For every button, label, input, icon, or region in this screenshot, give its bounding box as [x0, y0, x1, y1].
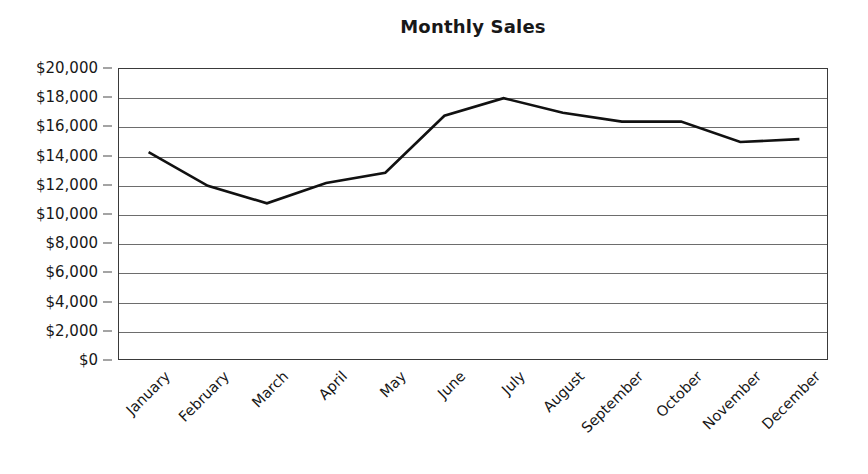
plot-area: [118, 68, 828, 360]
x-axis-tick-label: January: [123, 368, 173, 418]
y-axis-tick-mark: [103, 360, 112, 361]
y-axis-tick-mark: [103, 330, 112, 331]
monthly-sales-chart: Monthly Sales $20,000$18,000$16,000$14,0…: [0, 0, 868, 474]
y-axis-tick-label: $0: [79, 351, 98, 369]
y-axis-tick-label: $2,000: [46, 322, 99, 340]
y-axis-tick-label: $18,000: [36, 88, 98, 106]
sales-line-series: [149, 98, 800, 203]
chart-title: Monthly Sales: [118, 16, 828, 37]
x-axis-tick-label: September: [578, 368, 646, 436]
y-axis-tick-label: $8,000: [46, 234, 99, 252]
x-axis-tick-label: March: [249, 368, 292, 411]
y-axis-tick-label: $16,000: [36, 117, 98, 135]
y-axis-tick-label: $10,000: [36, 205, 98, 223]
x-axis: JanuaryFebruaryMarchAprilMayJuneJulyAugu…: [118, 360, 828, 470]
y-axis-tick-mark: [103, 97, 112, 98]
x-axis-tick-label: May: [377, 368, 410, 401]
x-axis-tick-label: July: [498, 368, 528, 398]
y-axis-tick-mark: [103, 155, 112, 156]
y-axis-tick-mark: [103, 301, 112, 302]
y-axis-tick-label: $14,000: [36, 147, 98, 165]
y-axis-tick-mark: [103, 184, 112, 185]
y-axis-tick-label: $4,000: [46, 293, 99, 311]
y-axis: $20,000$18,000$16,000$14,000$12,000$10,0…: [0, 68, 112, 360]
x-axis-tick-label: April: [316, 368, 351, 403]
y-axis-tick-mark: [103, 126, 112, 127]
y-axis-tick-mark: [103, 243, 112, 244]
x-axis-tick-label: June: [435, 368, 469, 402]
x-axis-tick-label: December: [759, 368, 823, 432]
x-axis-tick-label: August: [540, 368, 587, 415]
x-axis-tick-label: November: [700, 368, 765, 433]
x-axis-tick-label: October: [653, 368, 705, 420]
y-axis-tick-label: $12,000: [36, 176, 98, 194]
y-axis-tick-label: $6,000: [46, 263, 99, 281]
y-axis-tick-mark: [103, 272, 112, 273]
y-axis-tick-mark: [103, 68, 112, 69]
y-axis-tick-mark: [103, 214, 112, 215]
series-layer: [119, 69, 829, 361]
y-axis-tick-label: $20,000: [36, 59, 98, 77]
x-axis-tick-label: February: [175, 368, 232, 425]
